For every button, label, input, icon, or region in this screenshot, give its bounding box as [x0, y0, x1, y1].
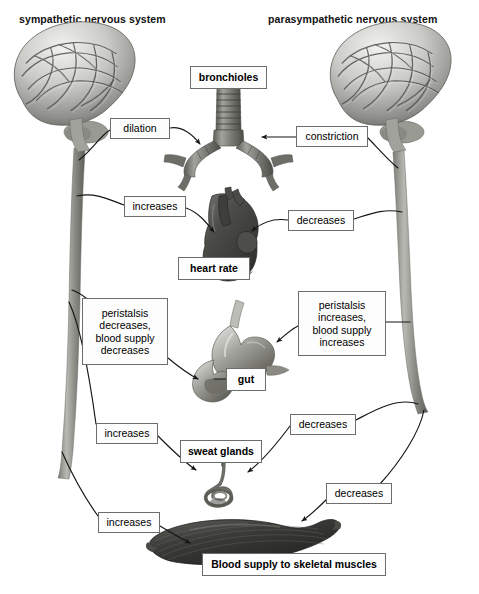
wire-right-bronchi-in — [368, 138, 398, 168]
label-heart-rate: heart rate — [178, 257, 250, 280]
wire-left-heart-out — [186, 208, 214, 232]
label-decreases-heart-rate: decreases — [288, 210, 354, 231]
diagram-canvas: sympathetic nervous system parasympathet… — [0, 0, 479, 594]
label-increases-sweat-glands: increases — [96, 423, 158, 444]
label-decreases-muscle-blood-supply: decreases — [326, 483, 392, 504]
label-increases-muscle-blood-supply: increases — [98, 512, 160, 533]
wire-right-heart-out — [252, 219, 288, 231]
label-peristalsis-increases: peristalsis increases, blood supply incr… — [298, 291, 386, 356]
wire-left-bronchi-out — [170, 128, 200, 144]
label-blood-supply-skeletal-muscles: Blood supply to skeletal muscles — [202, 553, 386, 576]
wire-left-muscle-in — [62, 452, 98, 516]
label-sweat-glands: sweat glands — [180, 440, 262, 463]
label-dilation: dilation — [110, 118, 170, 139]
label-increases-heart-rate: increases — [124, 196, 186, 217]
label-gut: gut — [226, 368, 266, 391]
wire-right-muscle-in — [380, 410, 424, 484]
wire-right-heart-in — [354, 211, 402, 219]
wire-left-muscle-out — [160, 526, 190, 543]
label-decreases-sweat-glands: decreases — [290, 414, 356, 435]
wire-right-gut-out — [277, 326, 298, 342]
wire-left-heart-in — [77, 195, 124, 205]
label-constriction: constriction — [296, 126, 368, 147]
wire-left-bronchi-in — [79, 130, 110, 160]
wire-right-muscle-out — [302, 498, 328, 521]
wire-right-sweat-in — [356, 402, 418, 420]
wire-left-gut-out — [168, 358, 198, 379]
label-bronchioles: bronchioles — [190, 66, 267, 89]
label-peristalsis-decreases: peristalsis decreases, blood supply decr… — [82, 298, 168, 365]
connector-layer — [0, 0, 479, 594]
wire-left-gut-in — [72, 290, 86, 298]
